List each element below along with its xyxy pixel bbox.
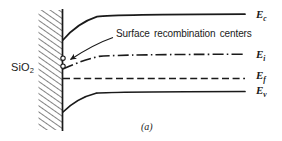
intrinsic-level-curve: [63, 54, 245, 69]
surface-recombination-annotation: Surface recombination centers: [116, 29, 252, 39]
oxide-label-subscript: 2: [30, 66, 34, 75]
oxide-material-label: SiO2: [11, 62, 34, 73]
band-diagram-canvas: [0, 0, 282, 141]
valence-band-label: Ev: [256, 85, 267, 96]
oxide-hatched-region: [39, 10, 63, 130]
fermi-level-subscript: f: [263, 75, 266, 84]
oxide-label-main: SiO: [11, 61, 30, 73]
valence-band-subscript: v: [263, 90, 266, 99]
energy-band-figure: SiO2 Surface recombination centers Ec Ei…: [0, 0, 282, 141]
fermi-level-label: Ef: [256, 70, 266, 81]
conduction-band-label: Ec: [256, 9, 267, 20]
conduction-band-subscript: c: [263, 14, 266, 23]
figure-caption: (a): [141, 122, 153, 132]
surface-state-marker-lower: [61, 64, 65, 68]
intrinsic-level-label: Ei: [256, 49, 265, 60]
surface-state-marker-upper: [61, 56, 65, 60]
valence-band-curve: [63, 92, 245, 113]
